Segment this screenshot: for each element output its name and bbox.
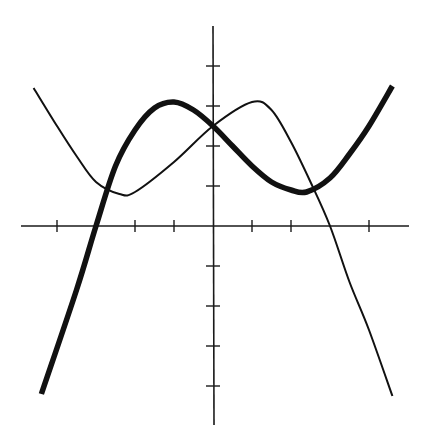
- y-axis: [213, 26, 214, 425]
- function-graph: [0, 0, 428, 445]
- axes: [21, 26, 409, 425]
- thick-curve: [41, 86, 392, 394]
